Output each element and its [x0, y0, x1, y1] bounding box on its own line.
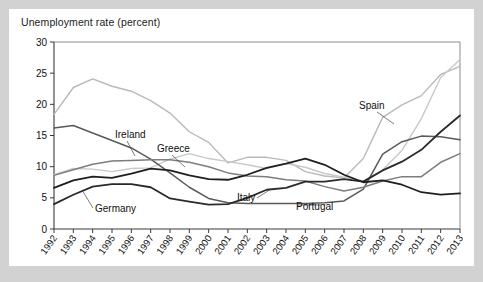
x-tick-label: 1994 — [77, 233, 98, 257]
y-tick-label: 5 — [41, 192, 47, 203]
x-tick-label: 1999 — [173, 233, 194, 257]
x-tick-label: 2005 — [289, 233, 310, 257]
x-tick-label: 1998 — [154, 233, 175, 257]
series-label-portugal: Portugal — [296, 201, 333, 212]
y-tick-label: 15 — [36, 130, 48, 141]
line-chart-plot: 051015202530 199219931994199519961997199… — [9, 9, 474, 266]
x-tick-label: 2002 — [231, 233, 252, 257]
x-tick-label: 1997 — [135, 233, 156, 257]
leader-line-ireland — [127, 141, 135, 156]
y-tick-label: 20 — [36, 99, 48, 110]
x-tick-label: 1996 — [115, 233, 136, 257]
x-tick-label: 2003 — [251, 233, 272, 257]
x-tick-label: 2009 — [367, 233, 388, 257]
y-tick-label: 25 — [36, 68, 48, 79]
leader-line-germany — [82, 190, 93, 208]
x-tick-label: 1995 — [96, 233, 117, 257]
y-axis-ticks: 051015202530 — [36, 37, 54, 235]
series-annotations: IrelandGreeceItalyPortugalSpainGermany — [82, 100, 394, 214]
series-label-greece: Greece — [157, 143, 190, 154]
series-label-spain: Spain — [359, 100, 385, 111]
x-tick-label: 2011 — [406, 233, 427, 256]
series-label-germany: Germany — [95, 203, 136, 214]
x-tick-label: 2001 — [212, 233, 233, 257]
y-tick-label: 0 — [41, 224, 47, 235]
leader-line-spain — [377, 112, 394, 124]
x-tick-label: 1992 — [38, 233, 59, 257]
x-tick-label: 2007 — [328, 233, 349, 257]
x-axis-ticks: 1992199319941995199619971998199920002001… — [38, 229, 465, 256]
x-tick-label: 1993 — [57, 233, 78, 257]
x-tick-label: 2000 — [193, 233, 214, 257]
x-tick-label: 2012 — [425, 233, 446, 257]
x-tick-label: 2004 — [270, 233, 291, 257]
y-tick-label: 10 — [36, 161, 48, 172]
chart-figure: Unemployment rate (percent) 051015202530… — [9, 9, 474, 266]
series-label-italy: Italy — [237, 192, 255, 203]
y-tick-label: 30 — [36, 37, 48, 48]
x-tick-label: 2008 — [347, 233, 368, 257]
x-tick-label: 2010 — [386, 233, 407, 257]
series-label-ireland: Ireland — [115, 129, 146, 140]
x-tick-label: 2006 — [309, 233, 330, 257]
x-tick-label: 2013 — [444, 233, 465, 257]
